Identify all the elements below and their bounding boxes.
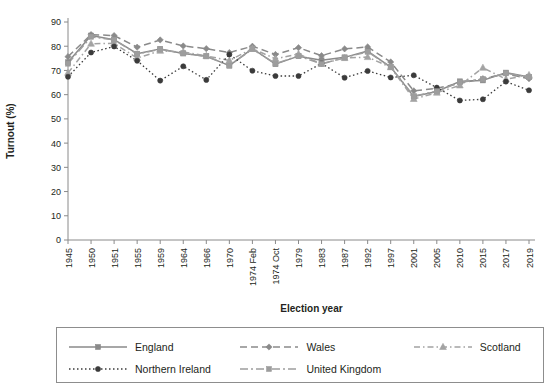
- x-tick-label: 1974 Feb: [248, 248, 258, 286]
- data-point-marker: [480, 64, 487, 70]
- x-tick-label: 1951: [110, 248, 120, 268]
- data-point-marker: [112, 37, 117, 42]
- y-tick-label: 70: [51, 66, 61, 76]
- data-point-marker: [158, 47, 163, 52]
- legend-grid: EnglandWalesScotlandNorthern IrelandUnit…: [57, 328, 543, 382]
- data-point-marker: [319, 61, 324, 66]
- y-tick-label: 20: [51, 187, 61, 197]
- series-markers-united_kingdom: [66, 34, 532, 98]
- data-point-marker: [250, 47, 255, 52]
- data-point-marker: [227, 63, 232, 68]
- x-tick-label: 1959: [156, 248, 166, 268]
- y-tick-label: 50: [51, 114, 61, 124]
- data-point-marker: [66, 61, 71, 66]
- x-axis-title: Election year: [280, 303, 342, 314]
- data-point-marker: [181, 64, 186, 69]
- data-point-marker: [181, 51, 186, 56]
- y-tick-label: 80: [51, 42, 61, 52]
- x-tick-label: 2010: [455, 248, 465, 268]
- legend-swatch-scotland: [412, 340, 474, 354]
- data-point-marker: [266, 344, 272, 350]
- legend-label-united_kingdom: United Kingdom: [300, 363, 381, 375]
- legend-label-england: England: [129, 341, 174, 353]
- data-point-marker: [342, 55, 347, 60]
- data-point-marker: [88, 40, 95, 46]
- plot-series: [65, 31, 533, 103]
- data-point-marker: [134, 44, 140, 50]
- data-point-marker: [526, 88, 531, 93]
- y-tick-label: 60: [51, 90, 61, 100]
- data-point-marker: [342, 75, 347, 80]
- data-point-marker: [250, 68, 255, 73]
- x-tick-label: 1964: [179, 248, 189, 268]
- data-point-marker: [411, 94, 416, 99]
- legend-row: Northern IrelandUnited Kingdom: [67, 358, 537, 380]
- data-point-marker: [503, 79, 508, 84]
- data-point-marker: [89, 50, 94, 55]
- y-tick-label: 40: [51, 139, 61, 149]
- data-point-marker: [480, 77, 485, 82]
- legend-item-england[interactable]: England: [67, 336, 238, 358]
- chart-legend: EnglandWalesScotlandNorthern IrelandUnit…: [56, 327, 544, 383]
- x-tick-label: 2015: [478, 248, 488, 268]
- y-tick-label: 90: [51, 17, 61, 27]
- legend-swatch-wales: [238, 340, 300, 354]
- data-point-marker: [365, 49, 370, 54]
- legend-label-northern_ireland: Northern Ireland: [129, 363, 211, 375]
- data-point-marker: [158, 78, 163, 83]
- x-tick-label: 1987: [340, 248, 350, 268]
- x-tick-label: 1983: [317, 248, 327, 268]
- data-point-marker: [365, 68, 370, 73]
- data-point-marker: [157, 37, 163, 43]
- data-point-marker: [480, 97, 485, 102]
- data-point-marker: [296, 73, 301, 78]
- data-point-marker: [267, 367, 272, 372]
- x-tick-label: 1974 Oct: [271, 248, 281, 285]
- legend-label-wales: Wales: [300, 341, 335, 353]
- legend-item-united_kingdom[interactable]: United Kingdom: [238, 358, 411, 380]
- data-point-marker: [89, 34, 94, 39]
- y-axis-title: Turnout (%): [5, 103, 16, 158]
- legend-label-scotland: Scotland: [474, 341, 521, 353]
- data-point-marker: [273, 61, 278, 66]
- x-tick-label: 1950: [87, 248, 97, 268]
- data-point-marker: [135, 51, 140, 56]
- data-point-marker: [296, 53, 301, 58]
- legend-item-northern_ireland[interactable]: Northern Ireland: [67, 358, 238, 380]
- data-point-marker: [273, 73, 278, 78]
- data-point-marker: [388, 65, 393, 70]
- x-tick-label: 1945: [64, 248, 74, 268]
- data-point-marker: [411, 73, 416, 78]
- x-tick-label: 2001: [409, 248, 419, 268]
- data-point-marker: [434, 89, 439, 94]
- legend-swatch-england: [67, 340, 129, 354]
- x-tick-label: 2005: [432, 248, 442, 268]
- data-point-marker: [65, 74, 70, 79]
- data-point-marker: [112, 44, 117, 49]
- legend-swatch-northern_ireland: [67, 362, 129, 376]
- x-tick-label: 1992: [363, 248, 373, 268]
- x-tick-label: 1997: [386, 248, 396, 268]
- data-point-marker: [95, 366, 100, 371]
- y-tick-label: 0: [56, 235, 61, 245]
- legend-item-empty: [412, 358, 537, 380]
- x-tick-label: 1979: [294, 248, 304, 268]
- data-point-marker: [527, 74, 532, 79]
- axis-titles: Turnout (%)Election year: [5, 103, 343, 314]
- legend-swatch-united_kingdom: [238, 362, 300, 376]
- data-point-marker: [204, 54, 209, 59]
- chart-figure: 0102030405060708090194519501951195519591…: [0, 0, 551, 387]
- y-tick-label: 10: [51, 211, 61, 221]
- data-point-marker: [203, 46, 209, 52]
- data-point-marker: [457, 98, 462, 103]
- x-tick-label: 1966: [202, 248, 212, 268]
- legend-item-scotland[interactable]: Scotland: [412, 336, 537, 358]
- data-point-marker: [227, 52, 232, 57]
- data-point-marker: [388, 75, 393, 80]
- series-markers-england: [66, 33, 532, 99]
- x-tick-label: 1970: [225, 248, 235, 268]
- y-tick-label: 30: [51, 163, 61, 173]
- x-tick-label: 2017: [501, 248, 511, 268]
- data-point-marker: [341, 46, 347, 52]
- legend-item-wales[interactable]: Wales: [238, 336, 411, 358]
